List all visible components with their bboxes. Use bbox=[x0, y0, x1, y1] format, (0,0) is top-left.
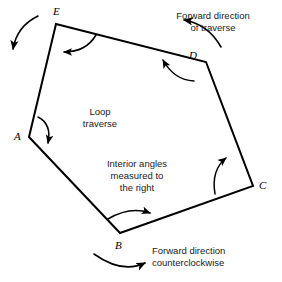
loop-traverse-annotation: Loop traverse bbox=[83, 106, 117, 130]
loop-traverse-line-2: traverse bbox=[83, 118, 117, 130]
vertex-label-e: E bbox=[53, 6, 60, 17]
vertex-label-a: A bbox=[14, 131, 21, 142]
angle-arc-a bbox=[38, 117, 49, 143]
forward-direction-traverse-line-2: of traverse bbox=[176, 22, 249, 34]
counterclockwise-direction-arrow bbox=[94, 254, 145, 267]
forward-direction-traverse-line-1: Forward direction bbox=[176, 10, 249, 22]
vertex-label-b: B bbox=[115, 240, 122, 251]
traverse-diagram: A B C D E Loop traverse Interior angles … bbox=[0, 0, 282, 282]
vertex-label-c: C bbox=[259, 180, 266, 191]
angle-arc-b bbox=[108, 211, 150, 219]
interior-angles-line-3: the right bbox=[107, 182, 167, 194]
loop-traverse-line-1: Loop bbox=[83, 106, 117, 118]
forward-direction-traverse-annotation: Forward direction of traverse bbox=[176, 10, 249, 34]
angle-arc-c bbox=[214, 158, 226, 194]
diagram-canvas bbox=[0, 0, 282, 282]
interior-angles-line-2: measured to bbox=[107, 170, 167, 182]
angle-arc-e bbox=[64, 35, 96, 52]
angle-arc-d bbox=[163, 60, 194, 81]
forward-direction-counterclockwise-annotation: Forward direction counterclockwise bbox=[152, 245, 225, 269]
forward-direction-ccw-line-2: counterclockwise bbox=[152, 257, 225, 269]
vertex-label-d: D bbox=[189, 50, 197, 61]
interior-angles-annotation: Interior angles measured to the right bbox=[107, 158, 167, 194]
outer-left-direction-arrow bbox=[13, 16, 38, 49]
traverse-polygon bbox=[29, 24, 253, 233]
interior-angles-line-1: Interior angles bbox=[107, 158, 167, 170]
forward-direction-ccw-line-1: Forward direction bbox=[152, 245, 225, 257]
